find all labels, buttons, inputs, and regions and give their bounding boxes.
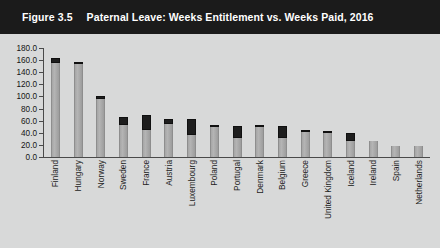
- bar-segment-weeks-paid: [346, 141, 355, 157]
- y-axis-tick-labels: 0.020.040.060.080.0100.0120.0140.0160.01…: [0, 48, 40, 157]
- y-tick-label: 100.0: [17, 92, 38, 101]
- figure-container: Figure 3.5 Paternal Leave: Weeks Entitle…: [0, 0, 440, 248]
- bar-segment-weeks-paid: [51, 63, 60, 157]
- bar-segment-weeks-paid: [142, 130, 151, 157]
- bar-segment-weeks-unpaid: [74, 62, 83, 64]
- x-tick-label: Austria: [164, 160, 174, 186]
- bar-segment-weeks-paid: [391, 146, 400, 157]
- x-label-slot: France: [140, 160, 152, 244]
- bar-column[interactable]: [255, 126, 264, 157]
- x-tick-label: Luxembourg: [187, 160, 197, 206]
- x-tick-label: Iceland: [346, 160, 356, 187]
- figure-title: Figure 3.5 Paternal Leave: Weeks Entitle…: [22, 11, 374, 23]
- bar-segment-weeks-unpaid: [323, 131, 332, 133]
- x-axis-category-labels: FinlandHungaryNorwaySwedenFranceAustriaL…: [44, 160, 430, 246]
- figure-title-text: Paternal Leave: Weeks Entitlement vs. We…: [87, 11, 374, 23]
- x-label-slot: Portugal: [231, 160, 243, 244]
- x-label-slot: Netherlands: [413, 160, 425, 244]
- bar-segment-weeks-unpaid: [210, 125, 219, 127]
- x-label-slot: Poland: [208, 160, 220, 244]
- x-tick-label: Greece: [300, 160, 310, 187]
- x-tick-label: Belgium: [277, 160, 287, 190]
- x-label-slot: Ireland: [367, 160, 379, 244]
- chart-panel: 0.020.040.060.080.0100.0120.0140.0160.01…: [0, 34, 440, 248]
- bar-segment-weeks-paid: [164, 124, 173, 157]
- y-axis-tick: [39, 145, 43, 146]
- x-label-slot: Denmark: [254, 160, 266, 244]
- x-tick-label: Finland: [50, 160, 60, 187]
- x-label-slot: Luxembourg: [186, 160, 198, 244]
- bar-column[interactable]: [210, 126, 219, 157]
- bar-column[interactable]: [301, 130, 310, 157]
- bar-series-group: [44, 48, 430, 157]
- x-label-slot: Belgium: [276, 160, 288, 244]
- y-axis-tick: [39, 84, 43, 85]
- x-label-slot: Finland: [49, 160, 61, 244]
- bar-segment-weeks-paid: [187, 135, 196, 157]
- y-axis-tick: [39, 60, 43, 61]
- bar-segment-weeks-unpaid: [187, 119, 196, 135]
- y-axis-tick: [39, 48, 43, 49]
- x-tick-label: United Kingdom: [323, 160, 333, 219]
- y-tick-label: 180.0: [17, 44, 38, 53]
- x-tick-label: Spain: [391, 160, 401, 181]
- x-tick-label: Norway: [96, 160, 106, 188]
- y-axis-tick: [39, 109, 43, 110]
- bar-column[interactable]: [369, 141, 378, 157]
- x-tick-label: France: [141, 160, 151, 186]
- y-tick-label: 40.0: [21, 128, 37, 137]
- bar-segment-weeks-paid: [210, 127, 219, 157]
- bar-column[interactable]: [142, 115, 151, 157]
- bar-segment-weeks-paid: [278, 138, 287, 157]
- bar-segment-weeks-paid: [414, 146, 423, 157]
- x-axis-line: [43, 157, 430, 158]
- figure-title-bar: Figure 3.5 Paternal Leave: Weeks Entitle…: [0, 0, 440, 34]
- bar-column[interactable]: [187, 119, 196, 157]
- bar-column[interactable]: [414, 146, 423, 157]
- bar-segment-weeks-unpaid: [164, 119, 173, 124]
- x-label-slot: Norway: [95, 160, 107, 244]
- bar-segment-weeks-paid: [369, 141, 378, 157]
- bar-segment-weeks-unpaid: [51, 58, 60, 63]
- x-tick-label: Sweden: [118, 160, 128, 190]
- x-tick-label: Ireland: [368, 160, 378, 185]
- bar-segment-weeks-unpaid: [96, 96, 105, 100]
- y-tick-label: 160.0: [17, 56, 38, 65]
- y-tick-label: 20.0: [21, 140, 37, 149]
- bar-column[interactable]: [278, 126, 287, 157]
- x-tick-label: Netherlands: [414, 160, 424, 205]
- bar-column[interactable]: [391, 146, 400, 157]
- bar-segment-weeks-paid: [255, 127, 264, 157]
- y-axis-tick: [39, 133, 43, 134]
- bar-column[interactable]: [119, 117, 128, 157]
- y-tick-label: 140.0: [17, 68, 38, 77]
- bar-column[interactable]: [346, 133, 355, 157]
- x-label-slot: Sweden: [117, 160, 129, 244]
- bar-segment-weeks-unpaid: [301, 130, 310, 132]
- bar-segment-weeks-paid: [119, 125, 128, 157]
- bar-column[interactable]: [323, 133, 332, 157]
- x-label-slot: Austria: [163, 160, 175, 244]
- y-tick-label: 60.0: [21, 116, 37, 125]
- bar-segment-weeks-paid: [301, 132, 310, 157]
- bar-column[interactable]: [233, 126, 242, 157]
- bar-segment-weeks-paid: [323, 133, 332, 157]
- y-tick-label: 80.0: [21, 104, 37, 113]
- bar-column[interactable]: [74, 62, 83, 157]
- x-label-slot: Greece: [299, 160, 311, 244]
- bar-segment-weeks-paid: [96, 99, 105, 157]
- bar-column[interactable]: [96, 96, 105, 157]
- bar-segment-weeks-unpaid: [233, 126, 242, 138]
- x-label-slot: Hungary: [72, 160, 84, 244]
- y-axis-tick: [39, 96, 43, 97]
- x-tick-label: Portugal: [232, 160, 242, 191]
- bar-segment-weeks-paid: [74, 64, 83, 157]
- x-label-slot: United Kingdom: [322, 160, 334, 244]
- x-tick-label: Poland: [209, 160, 219, 186]
- y-tick-label: 120.0: [17, 80, 38, 89]
- bar-column[interactable]: [51, 58, 60, 157]
- y-axis-tick: [39, 121, 43, 122]
- bar-segment-weeks-unpaid: [119, 117, 128, 125]
- bar-column[interactable]: [164, 119, 173, 157]
- y-axis-tick: [39, 72, 43, 73]
